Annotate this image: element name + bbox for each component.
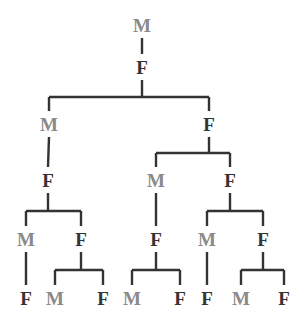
node-male: M — [232, 288, 250, 309]
family-tree-diagram: MFMFMFFMFFMFMFFMFFMF — [0, 0, 308, 328]
node-male: M — [133, 15, 151, 36]
node-female: F — [136, 57, 148, 78]
node-female: F — [224, 170, 236, 191]
node-female: F — [97, 288, 109, 309]
node-female: F — [150, 229, 162, 250]
node-female: F — [75, 229, 87, 250]
node-male: M — [198, 229, 216, 250]
nodes: MFMFMFFMFFMFMFFMFFMF — [17, 15, 290, 309]
node-male: M — [123, 288, 141, 309]
node-female: F — [278, 288, 290, 309]
node-male: M — [147, 170, 165, 191]
node-male: M — [17, 229, 35, 250]
node-female: F — [201, 288, 213, 309]
node-female: F — [203, 114, 215, 135]
node-male: M — [40, 114, 58, 135]
edge-line — [48, 137, 49, 167]
node-female: F — [42, 170, 54, 191]
node-female: F — [174, 288, 186, 309]
node-male: M — [46, 288, 64, 309]
node-female: F — [20, 288, 32, 309]
node-female: F — [257, 229, 269, 250]
